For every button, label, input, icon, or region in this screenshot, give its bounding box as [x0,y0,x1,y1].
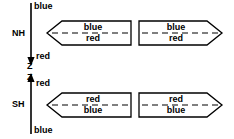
arrow-label-sh-right-bottom: blue [156,106,196,115]
arrow-label-sh-right-top: red [156,95,196,104]
diagram-vector-layer [0,0,234,139]
axis-upper-mid-label: red [36,52,50,61]
arrow-label-sh-left-top: red [73,95,113,104]
diagram-canvas: blue red Z Z red blue NH SH blue red blu… [0,0,234,139]
arrow-label-nh-left-top: blue [73,23,113,32]
arrow-label-sh-left-bottom: blue [73,106,113,115]
axis-z-lower-label: Z [27,73,33,82]
arrow-label-nh-right-top: blue [156,23,196,32]
axis-top-label: blue [34,2,53,11]
axis-bottom-label: blue [34,126,53,135]
hemisphere-label-nh: NH [12,29,25,38]
hemisphere-label-sh: SH [12,100,25,109]
axis-nh-group [27,3,34,66]
axis-lower-mid-label: red [36,79,50,88]
arrow-label-nh-left-bottom: red [73,34,113,43]
axis-z-upper-label: Z [27,62,33,71]
arrow-label-nh-right-bottom: red [156,34,196,43]
